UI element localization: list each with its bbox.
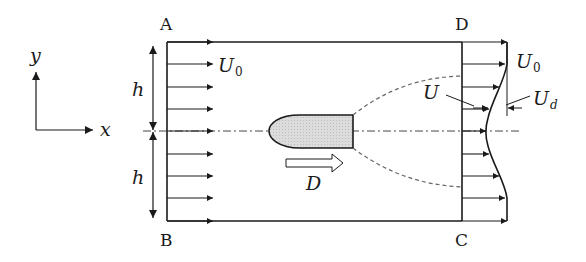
corner-label-b: B bbox=[160, 232, 173, 249]
corner-label-d: D bbox=[455, 16, 469, 33]
inlet-velocity-label: U0 bbox=[218, 56, 243, 78]
velocity-deficit-label: Ud bbox=[533, 89, 558, 111]
y-axis-label: y bbox=[30, 46, 41, 65]
outlet-freestream-velocity-label: U0 bbox=[516, 52, 541, 74]
wake-velocity-label: U bbox=[423, 83, 439, 102]
corner-label-a: A bbox=[160, 16, 172, 33]
corner-label-c: C bbox=[455, 232, 468, 249]
inlet-velocity-profile bbox=[167, 42, 213, 221]
drag-arrow bbox=[286, 154, 343, 172]
control-volume-diagram bbox=[0, 0, 586, 262]
coordinate-axes bbox=[36, 72, 93, 130]
lower-height-label: h bbox=[132, 168, 144, 187]
velocity-deficit-marker bbox=[446, 95, 530, 108]
x-axis-label: x bbox=[100, 120, 111, 139]
drag-label: D bbox=[306, 174, 321, 193]
body-shape bbox=[269, 115, 353, 148]
upper-height-label: h bbox=[132, 80, 144, 99]
